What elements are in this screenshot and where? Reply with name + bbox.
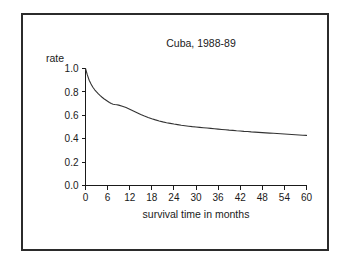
y-tick-label: 1.0: [65, 63, 79, 74]
y-axis-name-label: rate: [46, 52, 64, 64]
chart-title: Cuba, 1988-89: [166, 37, 236, 49]
x-tick-label: 6: [105, 192, 111, 203]
survival-curve-chart: Cuba, 1988-890.00.20.40.60.81.0061218243…: [0, 0, 346, 266]
x-axis-title-label: survival time in months: [143, 208, 250, 220]
y-tick-label: 0.8: [65, 87, 79, 98]
x-tick-label: 30: [190, 192, 202, 203]
y-tick-label: 0.0: [65, 180, 79, 191]
x-tick-label: 0: [83, 192, 89, 203]
x-tick-label: 24: [168, 192, 180, 203]
x-tick-label: 54: [279, 192, 291, 203]
x-tick-label: 12: [124, 192, 136, 203]
x-tick-label: 48: [257, 192, 269, 203]
x-tick-label: 18: [146, 192, 158, 203]
x-tick-label: 42: [235, 192, 247, 203]
y-tick-label: 0.6: [65, 110, 79, 121]
y-tick-label: 0.2: [65, 157, 79, 168]
x-tick-label: 36: [213, 192, 225, 203]
figure-canvas: Cuba, 1988-890.00.20.40.60.81.0061218243…: [0, 0, 346, 266]
x-tick-label: 60: [301, 192, 313, 203]
y-tick-label: 0.4: [65, 133, 79, 144]
survival-curve-line: [86, 69, 307, 136]
